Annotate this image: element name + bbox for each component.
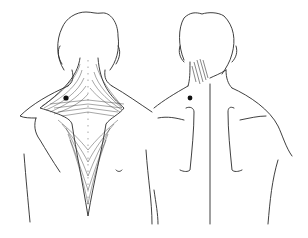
right-ear [116, 46, 120, 64]
left-scapula [180, 107, 194, 171]
right-shoulder [112, 86, 152, 112]
referral-pain-area [192, 59, 208, 84]
anatomy-illustration [0, 0, 308, 238]
trigger-point-left [63, 95, 68, 100]
head-outline-right [180, 13, 234, 74]
right-figure-referral-view [154, 13, 292, 224]
left-ear [58, 46, 62, 64]
anatomy-figure [0, 0, 308, 238]
right-scapula [228, 107, 242, 171]
trapezius-fibers-upper [42, 64, 124, 116]
trigger-point-right [188, 96, 193, 101]
left-figure-muscle-view [20, 12, 152, 224]
